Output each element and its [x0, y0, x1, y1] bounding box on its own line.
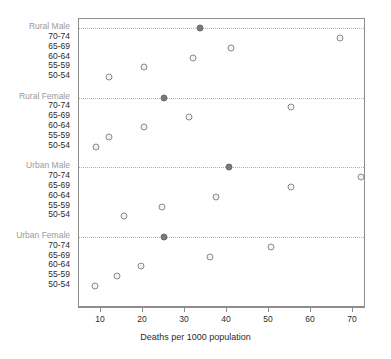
- y-axis-group-label: Urban Female: [16, 231, 70, 240]
- y-axis-category-label: 60-64: [48, 191, 70, 200]
- data-point: [336, 34, 343, 41]
- data-point: [357, 174, 364, 181]
- y-axis-group-label: Urban Male: [26, 161, 70, 170]
- x-axis-tick: [352, 307, 353, 312]
- x-axis-tick-label: 10: [95, 314, 104, 324]
- y-axis-category-label: 65-69: [48, 42, 70, 51]
- x-axis-tick: [142, 307, 143, 312]
- data-point: [207, 253, 214, 260]
- y-axis-category-label: 70-74: [48, 32, 70, 41]
- data-point: [105, 134, 112, 141]
- y-axis-category-label: 55-59: [48, 201, 70, 210]
- y-axis-category-label: 50-54: [48, 141, 70, 150]
- y-axis-category-label: 50-54: [48, 280, 70, 289]
- data-point: [158, 203, 165, 210]
- data-point: [190, 54, 197, 61]
- y-axis-group-label: Rural Male: [29, 22, 70, 31]
- x-axis-tick-label: 20: [137, 314, 146, 324]
- x-axis-title: Deaths per 1000 population: [0, 332, 391, 342]
- y-axis-category-label: 60-64: [48, 260, 70, 269]
- x-axis-tick-label: 50: [263, 314, 272, 324]
- data-point: [226, 164, 233, 171]
- y-axis-category-label: 65-69: [48, 251, 70, 260]
- y-axis-category-label: 60-64: [48, 52, 70, 61]
- y-axis-category-label: 65-69: [48, 111, 70, 120]
- y-axis-group-label: Rural Female: [19, 92, 70, 101]
- y-axis-category-label: 55-59: [48, 61, 70, 70]
- data-point: [91, 283, 98, 290]
- x-axis-tick: [268, 307, 269, 312]
- group-grid-line: [79, 167, 364, 168]
- x-axis-tick: [310, 307, 311, 312]
- dotplot-chart: Rural Male70-7465-6960-6455-5950-54Rural…: [0, 0, 391, 359]
- data-point: [161, 233, 168, 240]
- plot-frame: [78, 18, 365, 307]
- data-point: [140, 124, 147, 131]
- y-axis-category-label: 70-74: [48, 171, 70, 180]
- x-axis-tick: [184, 307, 185, 312]
- y-axis-category-label: 50-54: [48, 71, 70, 80]
- data-point: [228, 44, 235, 51]
- data-point: [268, 243, 275, 250]
- data-point: [113, 273, 120, 280]
- y-axis-category-label: 55-59: [48, 270, 70, 279]
- group-grid-line: [79, 237, 364, 238]
- data-point: [105, 74, 112, 81]
- data-point: [140, 64, 147, 71]
- group-grid-line: [79, 28, 364, 29]
- data-point: [287, 183, 294, 190]
- data-point: [137, 263, 144, 270]
- y-axis-category-label: 60-64: [48, 121, 70, 130]
- x-axis-tick-label: 30: [179, 314, 188, 324]
- y-axis-category-label: 55-59: [48, 131, 70, 140]
- x-axis-tick: [100, 307, 101, 312]
- y-axis-category-label: 65-69: [48, 181, 70, 190]
- data-point: [287, 104, 294, 111]
- group-grid-line: [79, 98, 364, 99]
- x-axis-tick: [226, 307, 227, 312]
- data-point: [92, 143, 99, 150]
- y-axis-category-label: 50-54: [48, 210, 70, 219]
- y-axis-labels: Rural Male70-7465-6960-6455-5950-54Rural…: [0, 0, 76, 359]
- y-axis-category-label: 70-74: [48, 101, 70, 110]
- data-point: [196, 25, 203, 32]
- x-axis-tick-label: 40: [221, 314, 230, 324]
- x-axis-line: [78, 307, 365, 308]
- x-axis-tick-label: 60: [305, 314, 314, 324]
- data-point: [213, 193, 220, 200]
- data-point: [121, 213, 128, 220]
- x-axis-tick-label: 70: [347, 314, 356, 324]
- data-point: [186, 114, 193, 121]
- data-point: [161, 94, 168, 101]
- y-axis-category-label: 70-74: [48, 241, 70, 250]
